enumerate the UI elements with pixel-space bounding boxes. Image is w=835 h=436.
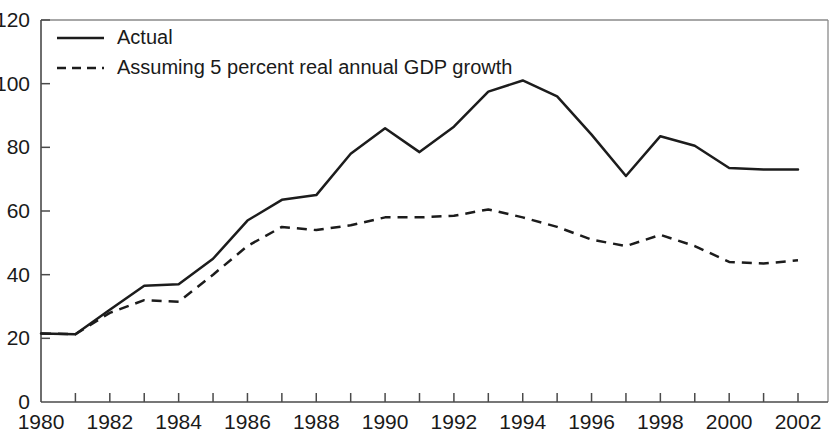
- x-tick-label: 1998: [637, 410, 684, 433]
- x-tick-label: 1988: [293, 410, 340, 433]
- legend-label-assuming-gdp-growth: Assuming 5 percent real annual GDP growt…: [117, 56, 512, 78]
- y-axis-ticks: [41, 20, 50, 338]
- data-series-group: [41, 80, 798, 334]
- y-tick-label: 120: [0, 8, 30, 31]
- y-axis: 020406080100120: [0, 8, 50, 413]
- x-axis-tick-labels: 1980198219841986198819901992199419961998…: [18, 410, 822, 433]
- x-tick-label: 1982: [86, 410, 133, 433]
- chart-container: 020406080100120 198019821984198619881990…: [0, 0, 835, 436]
- x-tick-label: 1992: [431, 410, 478, 433]
- x-tick-label: 2000: [706, 410, 753, 433]
- legend-label-actual: Actual: [117, 26, 173, 48]
- x-axis: 1980198219841986198819901992199419961998…: [18, 393, 828, 433]
- x-tick-label: 1984: [155, 410, 202, 433]
- chart-legend: Actual Assuming 5 percent real annual GD…: [57, 26, 512, 78]
- x-axis-ticks: [75, 393, 798, 402]
- x-tick-label: 1994: [499, 410, 546, 433]
- y-tick-label: 40: [7, 263, 30, 286]
- y-tick-label: 80: [7, 135, 30, 158]
- y-tick-label: 20: [7, 326, 30, 349]
- line-chart: 020406080100120 198019821984198619881990…: [0, 0, 835, 436]
- y-tick-label: 60: [7, 199, 30, 222]
- x-tick-label: 1996: [568, 410, 615, 433]
- y-tick-label: 100: [0, 72, 30, 95]
- series-line-assuming-gdp-growth: [41, 209, 798, 334]
- x-tick-label: 1986: [224, 410, 271, 433]
- y-axis-tick-labels: 020406080100120: [0, 8, 30, 413]
- series-line-actual: [41, 80, 798, 334]
- x-tick-label: 1990: [362, 410, 409, 433]
- x-tick-label: 1980: [18, 410, 65, 433]
- x-tick-label: 2002: [775, 410, 822, 433]
